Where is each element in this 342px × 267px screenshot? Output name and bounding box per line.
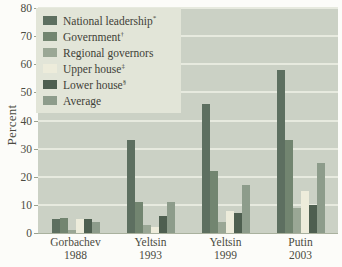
bar-regional-governors	[293, 208, 301, 233]
bar-government	[285, 140, 293, 233]
bar-group-gorbachev-1988	[52, 218, 100, 233]
bar-regional-governors	[218, 222, 226, 233]
bar-national-leadership	[127, 140, 135, 233]
chart-figure: Percent 01020304050607080 National leade…	[0, 0, 342, 267]
legend-swatch	[43, 96, 57, 105]
legend-label: Government†	[63, 30, 124, 43]
bar-national-leadership	[277, 70, 285, 233]
x-label-name: Yeltsin	[188, 236, 263, 249]
plot-area: National leadership*Government†Regional …	[38, 8, 338, 234]
legend-item-regional-governors: Regional governors	[43, 45, 175, 60]
legend-note-mark: †	[120, 30, 124, 38]
bar-group-yeltsin-1999	[202, 104, 250, 233]
bar-government	[135, 202, 143, 233]
legend: National leadership*Government†Regional …	[36, 8, 181, 113]
x-label-yeltsin-1993: Yeltsin1993	[113, 236, 188, 262]
x-label-year: 1993	[113, 249, 188, 262]
x-label-year: 1988	[38, 249, 113, 262]
bar-upper-house	[301, 191, 309, 233]
legend-label: Lower house§	[63, 78, 126, 91]
legend-note-mark: ‡	[121, 62, 125, 70]
x-label-yeltsin-1999: Yeltsin1999	[188, 236, 263, 262]
bar-upper-house	[151, 227, 159, 233]
legend-label: Regional governors	[63, 47, 153, 59]
y-tick-label-60: 60	[0, 58, 32, 71]
y-tick-label-70: 70	[0, 30, 32, 43]
y-tick-label-0: 0	[0, 227, 32, 240]
legend-item-national-leadership: National leadership*	[43, 13, 175, 28]
bar-lower-house	[234, 213, 242, 233]
y-tick-label-30: 30	[0, 143, 32, 156]
legend-swatch	[43, 32, 57, 41]
bar-group-putin-2003	[277, 70, 325, 233]
y-tick-label-80: 80	[0, 2, 32, 15]
bar-government	[210, 171, 218, 233]
bar-average	[167, 202, 175, 233]
bar-national-leadership	[52, 219, 60, 233]
legend-label: Upper house‡	[63, 62, 125, 75]
legend-note-mark: §	[123, 78, 127, 86]
legend-swatch	[43, 80, 57, 89]
x-label-name: Yeltsin	[113, 236, 188, 249]
x-label-name: Putin	[263, 236, 338, 249]
bar-regional-governors	[68, 230, 76, 233]
legend-swatch	[43, 48, 57, 57]
bar-lower-house	[309, 205, 317, 233]
bar-lower-house	[159, 216, 167, 233]
bar-regional-governors	[143, 225, 151, 233]
x-axis-labels: Gorbachev1988Yeltsin1993Yeltsin1999Putin…	[38, 236, 338, 262]
bar-average	[317, 163, 325, 233]
x-label-putin-2003: Putin2003	[263, 236, 338, 262]
legend-item-lower-house: Lower house§	[43, 77, 175, 92]
legend-swatch	[43, 64, 57, 73]
bar-upper-house	[226, 211, 234, 234]
legend-item-government: Government†	[43, 29, 175, 44]
x-label-gorbachev-1988: Gorbachev1988	[38, 236, 113, 262]
x-label-year: 2003	[263, 249, 338, 262]
y-tick-label-40: 40	[0, 115, 32, 128]
x-label-name: Gorbachev	[38, 236, 113, 249]
x-label-year: 1999	[188, 249, 263, 262]
legend-item-upper-house: Upper house‡	[43, 61, 175, 76]
legend-label: National leadership*	[63, 14, 156, 27]
legend-note-mark: *	[153, 14, 157, 22]
bar-average	[242, 185, 250, 233]
y-tick-label-20: 20	[0, 171, 32, 184]
y-tick-label-50: 50	[0, 86, 32, 99]
y-tick-label-10: 10	[0, 199, 32, 212]
bar-lower-house	[84, 219, 92, 233]
legend-item-average: Average	[43, 93, 175, 108]
bar-national-leadership	[202, 104, 210, 233]
bar-government	[60, 218, 68, 233]
legend-label: Average	[63, 95, 101, 107]
legend-swatch	[43, 16, 57, 25]
bar-average	[92, 222, 100, 233]
bar-upper-house	[76, 219, 84, 233]
bar-group-yeltsin-1993	[127, 140, 175, 233]
